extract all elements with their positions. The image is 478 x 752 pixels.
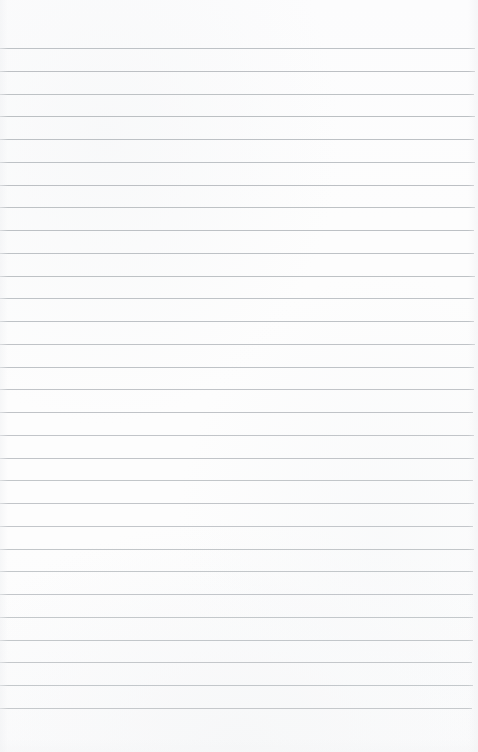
rule-line <box>0 526 473 527</box>
rule-line <box>0 71 475 72</box>
rule-line <box>0 594 473 595</box>
rule-line <box>0 94 474 95</box>
rule-line <box>0 480 473 481</box>
rule-line <box>0 662 472 663</box>
rule-line <box>0 640 473 641</box>
rule-line <box>0 116 475 117</box>
rule-line <box>0 230 474 231</box>
rule-line <box>0 389 474 390</box>
rule-lines-layer <box>0 0 478 752</box>
rule-line <box>0 571 473 572</box>
rule-line <box>0 253 474 254</box>
rule-line <box>0 685 473 686</box>
rule-line <box>0 276 475 277</box>
rule-line <box>0 162 475 163</box>
bottom-margin-area <box>0 708 478 752</box>
rule-line <box>0 617 473 618</box>
rule-line <box>0 367 474 368</box>
rule-line <box>0 207 475 208</box>
rule-line <box>0 48 475 49</box>
rule-line <box>0 298 474 299</box>
rule-line <box>0 344 475 345</box>
rule-line <box>0 321 474 322</box>
ruled-paper-page <box>0 0 478 752</box>
rule-line <box>0 412 473 413</box>
rule-line <box>0 185 474 186</box>
rule-line <box>0 435 474 436</box>
rule-line <box>0 139 474 140</box>
rule-line <box>0 549 474 550</box>
rule-line <box>0 458 474 459</box>
rule-line <box>0 503 474 504</box>
